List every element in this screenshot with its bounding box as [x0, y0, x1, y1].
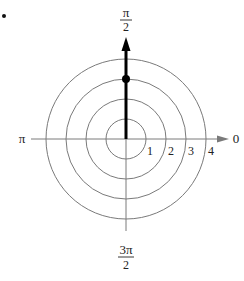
label-left: π	[19, 131, 26, 146]
label-right: 0	[233, 131, 240, 146]
polar-plot-svg: π 2 π 0 1 2 3 4 3π 2	[0, 0, 244, 281]
plotted-point	[122, 75, 130, 83]
label-top-numerator: π	[123, 5, 130, 20]
label-top-denominator: 2	[123, 20, 129, 34]
polar-diagram: π 2 π 0 1 2 3 4 3π 2	[0, 0, 244, 281]
ring-label-3: 3	[188, 144, 194, 158]
bullet-marker-icon	[2, 14, 6, 18]
label-bottom-numerator: 3π	[119, 242, 133, 257]
ring-label-4: 4	[208, 144, 214, 158]
ring-label-2: 2	[168, 144, 174, 158]
vector-arrowhead-icon	[122, 37, 131, 51]
polar-axis-arrow-icon	[217, 136, 229, 143]
ring-label-1: 1	[147, 144, 153, 158]
label-bottom-denominator: 2	[123, 258, 129, 272]
